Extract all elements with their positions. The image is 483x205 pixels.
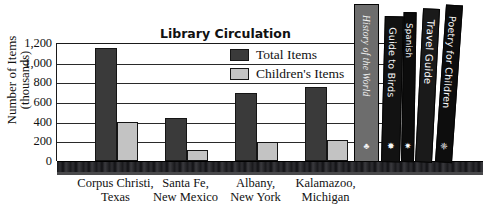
legend: Total ItemsChildren's Items [230, 45, 344, 83]
book-ornament-icon: ♣ [364, 142, 370, 151]
book-title: Poetry for Children [441, 16, 458, 109]
y-tick-label: 800 [0, 75, 52, 90]
bar-total-items [165, 118, 187, 161]
legend-label: Total Items [256, 47, 317, 63]
bar-group [165, 44, 239, 161]
book-ornament-icon: ✷ [404, 142, 412, 151]
book-spine: History of the World♣ [354, 4, 379, 162]
chart-title: Library Circulation [160, 26, 291, 41]
book-spine: Spanish✷ [401, 12, 417, 162]
book-ornament-icon: ✸ [387, 142, 395, 151]
bar-childrens-items [117, 122, 138, 161]
book-ornament-icon: ❈ [440, 142, 449, 152]
bar-total-items [235, 93, 257, 161]
bar-childrens-items [327, 140, 348, 161]
bar-total-items [95, 48, 117, 161]
bar-childrens-items [187, 150, 208, 161]
bar-total-items [305, 87, 327, 161]
y-tick-label: 1,000 [0, 55, 52, 70]
y-axis-tick-labels: 02004006008001,0001,200 [0, 0, 52, 205]
book-spine: Poetry for Children❈ [435, 4, 463, 163]
book-stack-graphic: History of the World♣Guide to Birds✸Span… [352, 0, 483, 162]
bar-group [95, 44, 169, 161]
x-tick-label-line: Michigan [271, 190, 381, 204]
x-tick-label-line: Kalamazoo, [271, 176, 381, 190]
y-tick-label: 200 [0, 134, 52, 149]
library-circulation-figure: Number of Items (thousands) 020040060080… [0, 0, 483, 205]
book-title: Travel Guide [422, 19, 436, 84]
bar-childrens-items [257, 142, 278, 161]
legend-item: Children's Items [230, 64, 344, 83]
y-tick-label: 1,200 [0, 36, 52, 51]
x-tick-label: Kalamazoo,Michigan [271, 176, 381, 204]
shelf-edge [57, 172, 483, 175]
legend-swatch-childrens-items [230, 68, 249, 80]
legend-swatch-total-items [230, 49, 249, 61]
y-tick-label: 400 [0, 114, 52, 129]
legend-item: Total Items [230, 45, 344, 64]
y-tick-label: 0 [0, 154, 52, 169]
book-title: Spanish [404, 23, 415, 58]
book-title: History of the World [361, 15, 371, 97]
y-tick-label: 600 [0, 95, 52, 110]
book-title: Guide to Birds [386, 27, 399, 97]
legend-label: Children's Items [256, 66, 344, 82]
